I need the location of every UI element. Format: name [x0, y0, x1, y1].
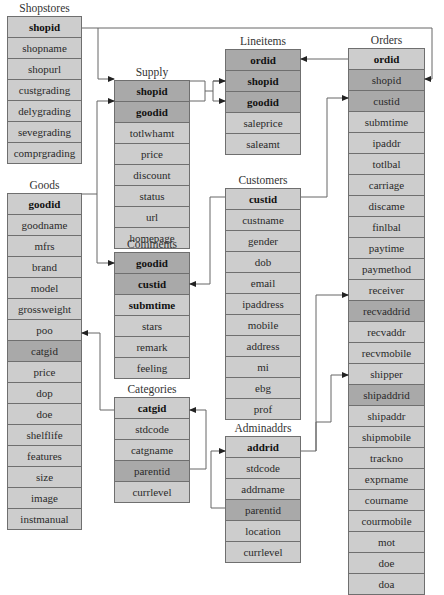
- field: currlevel: [115, 482, 189, 502]
- field: shipper: [349, 364, 424, 385]
- field: courname: [349, 490, 424, 511]
- field: prof: [226, 399, 300, 419]
- field: email: [226, 273, 300, 294]
- primary-key-field: goodid: [226, 92, 300, 113]
- field: url: [115, 207, 189, 228]
- table-shopstores: Shopstoresshopidshopnameshopurlcustgradi…: [7, 0, 82, 164]
- field: trackno: [349, 448, 424, 469]
- link-customers-orders: [301, 98, 348, 197]
- field: shipaddr: [349, 406, 424, 427]
- field: doa: [349, 574, 424, 594]
- field: delygrading: [8, 101, 81, 122]
- field: goodname: [8, 215, 81, 236]
- link-adminaddrs-recv: [301, 295, 348, 451]
- field: size: [8, 467, 81, 488]
- table-title: Customers: [225, 172, 301, 188]
- primary-key-field: ordid: [349, 49, 424, 70]
- field: mot: [349, 532, 424, 553]
- field: comprgrading: [8, 143, 81, 163]
- table-orders: Ordersordidshopidcustidsubmtimeipaddrtot…: [348, 32, 425, 595]
- primary-key-field: submtime: [115, 295, 189, 316]
- table-goods: Goodsgoodidgoodnamemfrsbrandmodelgrosswe…: [7, 177, 82, 530]
- field: features: [8, 446, 81, 467]
- foreign-key-field: custid: [349, 91, 424, 112]
- field: ebg: [226, 378, 300, 399]
- field: shopurl: [8, 59, 81, 80]
- field: paymethod: [349, 259, 424, 280]
- field: instmanual: [8, 509, 81, 529]
- primary-key-field: shopid: [115, 81, 189, 102]
- field: dop: [8, 383, 81, 404]
- field: feeling: [115, 358, 189, 378]
- table-title: Categories: [114, 381, 190, 397]
- foreign-key-field: catgid: [8, 341, 81, 362]
- field: price: [8, 362, 81, 383]
- field-list: goodidgoodnamemfrsbrandmodelgrossweightp…: [7, 193, 82, 530]
- primary-key-field: custid: [226, 189, 300, 210]
- table-title: Lineitems: [225, 33, 301, 49]
- field: receiver: [349, 280, 424, 301]
- foreign-key-field: shipaddrid: [349, 385, 424, 406]
- field: saleamt: [226, 134, 300, 154]
- field: shelflife: [8, 425, 81, 446]
- field: paytime: [349, 238, 424, 259]
- field: stdcode: [226, 458, 300, 479]
- link-goods-supply: [82, 101, 114, 194]
- table-comments: Commentsgoodidcustidsubmtimestarsremarkf…: [114, 236, 190, 379]
- field: exprname: [349, 469, 424, 490]
- field: brand: [8, 257, 81, 278]
- table-lineitems: Lineitemsordidshopidgoodidsalepricesalea…: [225, 33, 301, 155]
- field-list: goodidcustidsubmtimestarsremarkfeeling: [114, 252, 190, 379]
- field: address: [226, 336, 300, 357]
- field-list: shopidshopnameshopurlcustgradingdelygrad…: [7, 16, 82, 164]
- field: doe: [349, 553, 424, 574]
- field: stars: [115, 316, 189, 337]
- foreign-key-field: parentid: [115, 461, 189, 482]
- primary-key-field: goodid: [8, 194, 81, 215]
- field: shipmobile: [349, 427, 424, 448]
- foreign-key-field: parentid: [226, 500, 300, 521]
- field: mobile: [226, 315, 300, 336]
- link-categories-self: [190, 410, 206, 469]
- field: finlbal: [349, 217, 424, 238]
- table-categories: Categoriescatgidstdcodecatgnameparentidc…: [114, 381, 190, 503]
- field: recvaddr: [349, 322, 424, 343]
- field-list: ordidshopidgoodidsalepricesaleamt: [225, 49, 301, 155]
- field: shopname: [8, 38, 81, 59]
- field: grossweight: [8, 299, 81, 320]
- table-supply: Supplyshopidgoodidtotlwhamtpricediscount…: [114, 64, 190, 249]
- field: addrname: [226, 479, 300, 500]
- field: stdcode: [115, 419, 189, 440]
- table-title: Adminaddrs: [225, 420, 301, 436]
- field-list: ordidshopidcustidsubmtimeipaddrtotlbalca…: [348, 48, 425, 595]
- table-customers: Customerscustidcustnamegenderdobemailipa…: [225, 172, 301, 420]
- table-title: Shopstores: [7, 0, 82, 16]
- table-title: Comments: [114, 236, 190, 252]
- field: dob: [226, 252, 300, 273]
- foreign-key-field: recvaddrid: [349, 301, 424, 322]
- field: totlbal: [349, 154, 424, 175]
- field: ipaddress: [226, 294, 300, 315]
- field: custgrading: [8, 80, 81, 101]
- link-shopstores-supply: [82, 28, 114, 79]
- field: sevegrading: [8, 122, 81, 143]
- field: discount: [115, 165, 189, 186]
- field: image: [8, 488, 81, 509]
- primary-key-field: addrid: [226, 437, 300, 458]
- field-list: custidcustnamegenderdobemailipaddressmob…: [225, 188, 301, 420]
- field: recvmobile: [349, 343, 424, 364]
- link-categories-goods: [82, 333, 114, 410]
- link-goods-comments: [97, 194, 114, 263]
- table-adminaddrs: Adminaddrsaddridstdcodeaddrnameparentidl…: [225, 420, 301, 563]
- link-supply-lineitems: [190, 81, 225, 101]
- field: totlwhamt: [115, 123, 189, 144]
- field: custname: [226, 210, 300, 231]
- field: carriage: [349, 175, 424, 196]
- field: gender: [226, 231, 300, 252]
- field: remark: [115, 337, 189, 358]
- field-list: addridstdcodeaddrnameparentidlocationcur…: [225, 436, 301, 563]
- field: status: [115, 186, 189, 207]
- field-list: catgidstdcodecatgnameparentidcurrlevel: [114, 397, 190, 503]
- field: mfrs: [8, 236, 81, 257]
- field: ipaddr: [349, 133, 424, 154]
